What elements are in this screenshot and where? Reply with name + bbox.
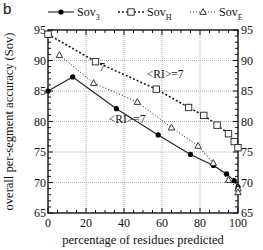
x-axis-title: percentage of residues predicted [62,233,224,247]
legend-label: Sov3 [77,5,100,22]
y-tick-label-left: 85 [34,84,46,98]
y-tick-label-right: 80 [241,115,253,129]
y-tick-label-right: 90 [241,54,253,68]
y-axis-title: overall per-segment accuracy (Sov) [2,33,16,211]
Sov3-marker-icon [156,132,161,137]
SovH-marker-icon [235,145,241,151]
SovH-marker-icon [185,104,191,110]
SovH-marker-icon [201,112,207,118]
annotation-label: <RI>=7 [109,113,146,125]
y-tick-label-right: 85 [241,84,253,98]
Sov3-marker-icon [114,106,119,111]
SovH-marker-icon [153,86,159,92]
SovE-marker-icon [90,80,96,86]
legend-SovH-marker-icon [128,9,134,15]
y-tick-label-right: 65 [241,206,253,220]
y-tick-label-left: 65 [34,206,46,220]
series-line [48,77,238,187]
legend-item-SovH: SovH [118,5,172,22]
legend-item-SovE: SovE [190,5,243,22]
Sov3-marker-icon [224,171,229,176]
legend-label: SovH [147,5,172,22]
Sov3-marker-icon [70,74,75,79]
y-tick-label-left: 90 [34,54,46,68]
SovH-marker-icon [214,122,220,128]
legend-label: SovE [219,5,243,22]
Sov3-marker-icon [45,88,50,93]
y-tick-label-right: 95 [241,23,253,37]
x-tick-label: 80 [194,216,206,230]
y-tick-label-left: 70 [34,176,46,190]
legend: Sov3SovHSovE [48,5,243,22]
SovH-marker-icon [225,131,231,137]
chart: 0204060801006565707075758080858590909595… [0,0,263,250]
x-tick-label: 20 [80,216,92,230]
SovE-marker-icon [134,99,140,105]
x-tick-label: 40 [118,216,130,230]
SovH-marker-icon [92,59,98,65]
series-Sov3 [45,74,240,189]
annotation-label: 7 [99,61,105,73]
y-tick-label-right: 75 [241,145,253,159]
annotation-label: <RI>=7 [147,68,184,80]
SovH-marker-icon [231,138,237,144]
y-tick-label-right: 70 [241,176,253,190]
annotations: 7<RI>=7<RI>=7 [99,61,183,125]
y-tick-label-left: 95 [34,23,46,37]
SovE-marker-icon [195,143,201,149]
SovE-marker-icon [56,52,62,58]
y-tick-label-left: 75 [34,145,46,159]
x-tick-label: 60 [156,216,168,230]
SovH-marker-icon [45,31,51,37]
legend-Sov3-marker-icon [58,9,63,14]
legend-item-Sov3: Sov3 [48,5,100,22]
SovE-marker-icon [168,124,174,130]
y-tick-label-left: 80 [34,115,46,129]
Sov3-marker-icon [188,152,193,157]
Sov3-marker-icon [232,178,237,183]
